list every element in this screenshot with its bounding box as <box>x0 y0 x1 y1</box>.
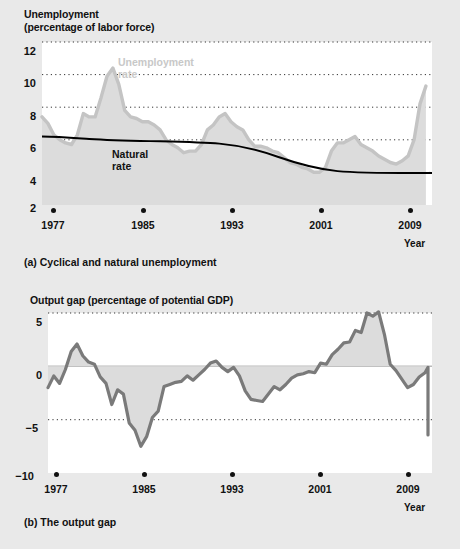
panel-a-ytick-2: 2 <box>6 203 36 214</box>
panel-a-xdot-2001 <box>319 208 324 213</box>
panel-a-xtick-1977: 1977 <box>28 220 78 231</box>
panel-a-xtick-1985: 1985 <box>118 220 168 231</box>
panel-output-gap: Output gap (percentage of potential GDP)… <box>0 280 460 549</box>
panel-b-xtick-1993: 1993 <box>207 484 257 495</box>
panel-b-xtick-1977: 1977 <box>31 484 81 495</box>
panel-a-plot-area <box>42 42 432 205</box>
panel-a-unemployment-fill <box>42 68 426 205</box>
panel-cyclical-natural-unemployment: Unemployment (percentage of labor force)… <box>0 0 460 280</box>
panel-a-series-unemployment <box>42 68 426 205</box>
panel-b-year-axis-label: Year <box>404 502 425 513</box>
panel-b-output-gap-fill <box>48 312 428 446</box>
panel-b-xdot-2001 <box>318 472 323 477</box>
panel-a-svg <box>42 42 432 205</box>
panel-a-caption: (a) Cyclical and natural unemployment <box>24 256 217 268</box>
panel-a-xtick-1993: 1993 <box>207 220 257 231</box>
panel-b-xdot-1985 <box>142 472 147 477</box>
panel-b-plot-area <box>48 313 432 473</box>
panel-b-series-output-gap <box>48 312 428 446</box>
panel-b-xdot-1993 <box>230 472 235 477</box>
panel-b-ytick-neg5: −5 <box>8 423 38 434</box>
panel-b-xtick-1985: 1985 <box>119 484 169 495</box>
panel-a-ytick-6: 6 <box>6 143 36 154</box>
panel-b-svg <box>48 313 432 473</box>
panel-b-ytick-0: 0 <box>12 370 42 381</box>
panel-b-xdot-1977 <box>54 472 59 477</box>
panel-a-ytick-12: 12 <box>6 46 36 57</box>
panel-b-xdot-2009 <box>406 472 411 477</box>
panel-b-caption: (b) The output gap <box>24 516 116 528</box>
panel-a-ytick-8: 8 <box>6 111 36 122</box>
panel-a-xtick-2009: 2009 <box>385 220 435 231</box>
panel-a-xdot-2009 <box>408 208 413 213</box>
panel-a-ytick-4: 4 <box>6 176 36 187</box>
panel-a-axis-title: Unemployment (percentage of labor force) <box>24 8 154 33</box>
economics-figure: Unemployment (percentage of labor force)… <box>0 0 460 549</box>
panel-b-xtick-2001: 2001 <box>295 484 345 495</box>
panel-a-year-axis-label: Year <box>404 238 425 249</box>
panel-a-label-unemployment-rate: Unemployment rate <box>118 56 194 80</box>
panel-b-xtick-2009: 2009 <box>383 484 433 495</box>
panel-a-xdot-1993 <box>230 208 235 213</box>
panel-a-xdot-1985 <box>141 208 146 213</box>
panel-b-ytick-5: 5 <box>12 317 42 328</box>
panel-a-xtick-2001: 2001 <box>296 220 346 231</box>
panel-a-label-natural-rate: Natural rate <box>112 148 148 172</box>
panel-a-xdot-1977 <box>51 208 56 213</box>
panel-b-axis-title: Output gap (percentage of potential GDP) <box>30 294 233 307</box>
panel-a-ytick-10: 10 <box>6 78 36 89</box>
panel-b-ytick-neg10: −10 <box>4 471 34 482</box>
